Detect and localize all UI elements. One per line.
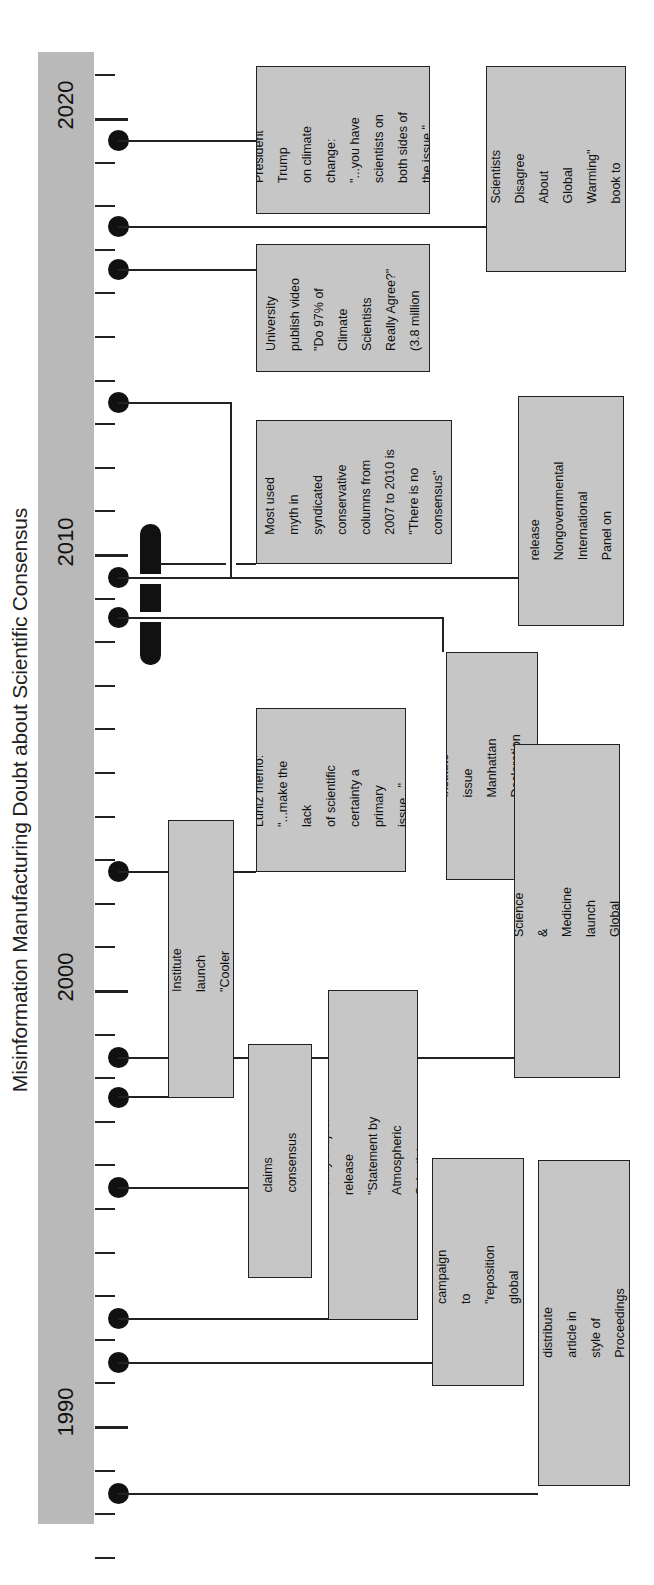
connector-1998-a — [118, 1057, 168, 1059]
tick-2006 — [95, 728, 115, 730]
tick-1994 — [95, 1252, 115, 1254]
tick-1989 — [95, 1470, 115, 1472]
event-box-prageru: Prager University publish video "Do 97% … — [256, 244, 430, 372]
tick-1993 — [95, 1295, 115, 1297]
event-text-oregon-petition: Oregon Institute of Science & Medicine l… — [514, 885, 620, 937]
tick-2015 — [95, 336, 115, 338]
tick-2012 — [95, 467, 115, 469]
tick-2011 — [95, 510, 115, 512]
connector-heartland-book — [118, 226, 486, 228]
connector-sepp — [118, 1318, 328, 1320]
event-text-trump: President Trump on climate change: "...y… — [256, 97, 430, 183]
tick-2004 — [95, 816, 115, 818]
year-label-2000: 2000 — [51, 937, 81, 1017]
tick-2002 — [95, 903, 115, 905]
tick-2003 — [95, 859, 115, 861]
connector-prageru — [118, 269, 262, 271]
connector-myth-a — [160, 563, 226, 565]
event-box-luntz: Luntz memo: "...make the lack of scienti… — [256, 708, 406, 872]
tick-1988 — [95, 1513, 115, 1515]
connector-1998-b — [232, 1057, 248, 1059]
tick-2010 — [95, 554, 128, 557]
tick-2021 — [95, 74, 115, 76]
connector-myth-b — [236, 563, 256, 565]
event-text-cei: Competitive Enterprise Institute launch … — [168, 926, 234, 992]
event-text-western-fuels: Western Fuels Association campaign to "r… — [432, 1240, 524, 1304]
timeline-axis-bar — [38, 52, 94, 1524]
event-box-myth: Most used myth in syndicated conservativ… — [256, 420, 452, 564]
year-label-2010: 2010 — [51, 502, 81, 582]
tick-2001 — [95, 946, 115, 948]
event-text-oregon-article: Oregon Institute of Science & Medicine d… — [538, 1288, 630, 1357]
tick-1998 — [95, 1077, 115, 1079]
event-text-sepp: Science & Environmental Policy Project r… — [328, 1115, 418, 1195]
tick-2013 — [95, 423, 115, 425]
event-box-oregon-article: Oregon Institute of Science & Medicine d… — [538, 1160, 630, 1486]
range-bar-segment — [140, 584, 161, 612]
event-box-cei: Competitive Enterprise Institute launch … — [168, 820, 234, 1098]
tick-1991 — [95, 1382, 115, 1384]
tick-2000 — [95, 990, 128, 993]
tick-1990 — [95, 1426, 128, 1429]
year-label-1990: 1990 — [51, 1372, 81, 1452]
tick-2020 — [95, 118, 128, 121]
tick-1999 — [95, 1034, 115, 1036]
event-dot-1997 — [108, 1087, 129, 1108]
diagram-title: Misinformation Manufacturing Doubt about… — [0, 300, 40, 1300]
connector-1997 — [118, 1096, 168, 1098]
event-text-myth: Most used myth in syndicated conservativ… — [258, 449, 450, 535]
range-bar-2007-2010 — [140, 524, 161, 574]
connector-cei-luntz — [232, 871, 256, 873]
tick-2005 — [95, 772, 115, 774]
connector-manhattan-a — [118, 617, 443, 619]
tick-2019 — [95, 162, 115, 164]
event-box-leipzig: Leipzig Declaration claims consensus doe… — [248, 1044, 312, 1278]
connector-oregon-article — [118, 1493, 538, 1495]
event-box-nipcc: Heartland Institute release Nongovernmen… — [518, 396, 624, 626]
connector-1998-d — [418, 1057, 514, 1059]
tick-2016 — [95, 292, 115, 294]
connector-manhattan-b — [442, 617, 444, 652]
tick-2007 — [95, 685, 115, 687]
event-text-prageru: Prager University publish video "Do 97% … — [256, 265, 430, 351]
event-box-western-fuels: Western Fuels Association campaign to "r… — [432, 1158, 524, 1386]
event-box-sepp: Science & Environmental Policy Project r… — [328, 990, 418, 1320]
connector-leipzig — [118, 1187, 248, 1189]
tick-2009 — [95, 598, 115, 600]
connector-trump — [118, 140, 262, 142]
tick-2017 — [95, 249, 115, 251]
event-text-luntz: Luntz memo: "...make the lack of scienti… — [256, 753, 406, 827]
year-label-2020: 2020 — [51, 65, 81, 145]
event-text-heartland-book: Heartland Institute send "Why Scientists… — [486, 135, 626, 204]
event-box-oregon-petition: Oregon Institute of Science & Medicine l… — [514, 744, 620, 1078]
event-text-leipzig: Leipzig Declaration claims consensus doe… — [248, 1129, 312, 1192]
connector-nipcc-a — [118, 402, 231, 404]
connector-2002 — [118, 871, 168, 873]
tick-1992 — [95, 1339, 115, 1341]
tick-1997 — [95, 1121, 115, 1123]
range-bar-segment — [140, 622, 161, 665]
tick-2014 — [95, 380, 115, 382]
tick-1996 — [95, 1164, 115, 1166]
event-box-trump: President Trump on climate change: "...y… — [256, 66, 430, 214]
tick-1995 — [95, 1208, 115, 1210]
connector-2009 — [118, 577, 518, 579]
connector-1998-c — [312, 1057, 328, 1059]
tick-2018 — [95, 205, 115, 207]
event-box-heartland-book: Heartland Institute send "Why Scientists… — [486, 66, 626, 272]
tick-2008 — [95, 641, 115, 643]
connector-western-fuels — [118, 1362, 432, 1364]
connector-nipcc-b — [230, 402, 232, 578]
tick-1987 — [95, 1557, 115, 1559]
event-text-nipcc: Heartland Institute release Nongovernmen… — [518, 462, 624, 561]
